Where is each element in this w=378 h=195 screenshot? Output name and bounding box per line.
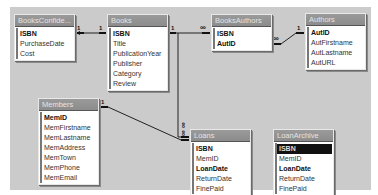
cardinality-one-label: 1 [297, 25, 300, 31]
field-category[interactable]: Category [111, 69, 166, 79]
cardinality-one-label: 1 [99, 25, 102, 31]
table-title[interactable]: BooksConfide... [15, 15, 74, 27]
field-list: ISBN Title PublicationYear Publisher Cat… [109, 28, 166, 89]
field-finepaid[interactable]: FinePaid [277, 184, 332, 194]
field-review[interactable]: Review [111, 79, 166, 89]
table-title[interactable]: Loans [191, 130, 250, 142]
field-loandate[interactable]: LoanDate [277, 164, 332, 174]
field-list: ISBN MemID LoanDate ReturnDate FinePaid [192, 143, 249, 194]
field-list: ISBN PurchaseDate Cost [16, 28, 73, 59]
field-finepaid[interactable]: FinePaid [194, 184, 249, 194]
table-booksauthors[interactable]: BooksAuthors ISBN AutID [211, 14, 272, 51]
field-isbn[interactable]: ISBN [18, 29, 73, 39]
field-isbn[interactable]: ISBN [194, 144, 249, 154]
table-loanarchive[interactable]: LoanArchive ISBN MemID LoanDate ReturnDa… [273, 129, 334, 195]
field-cost[interactable]: Cost [18, 49, 73, 59]
field-memid[interactable]: MemID [277, 154, 332, 164]
cardinality-one-label: 1 [77, 25, 80, 31]
table-title[interactable]: Members [39, 99, 98, 111]
field-isbn[interactable]: ISBN [215, 29, 270, 39]
cardinality-many-label: ∞ [273, 36, 279, 42]
field-autid[interactable]: AutID [309, 28, 364, 38]
field-isbn[interactable]: ISBN [111, 29, 166, 39]
cardinality-many-label: ∞ [180, 130, 186, 136]
field-memid[interactable]: MemID [42, 113, 97, 123]
cardinality-many-label: ∞ [200, 25, 206, 31]
cardinality-many-label: ∞ [180, 122, 186, 128]
field-publicationyear[interactable]: PublicationYear [111, 49, 166, 59]
field-purchasedate[interactable]: PurchaseDate [18, 39, 73, 49]
field-memaddress[interactable]: MemAddress [42, 143, 97, 153]
table-booksconfidential[interactable]: BooksConfide... ISBN PurchaseDate Cost [14, 14, 75, 61]
field-list: ISBN AutID [213, 28, 270, 49]
table-title[interactable]: Authors [306, 14, 365, 26]
field-list: ISBN MemID LoanDate ReturnDate FinePaid [275, 143, 332, 194]
field-auturl[interactable]: AutURL [309, 58, 364, 68]
field-mememail[interactable]: MemEmail [42, 173, 97, 183]
cardinality-one-label: 1 [101, 99, 104, 105]
field-title[interactable]: Title [111, 39, 166, 49]
field-returndate[interactable]: ReturnDate [277, 174, 332, 184]
table-title[interactable]: LoanArchive [274, 130, 333, 142]
field-publisher[interactable]: Publisher [111, 59, 166, 69]
field-memlastname[interactable]: MemLastname [42, 133, 97, 143]
field-returndate[interactable]: ReturnDate [194, 174, 249, 184]
field-autid[interactable]: AutID [215, 39, 270, 49]
field-loandate[interactable]: LoanDate [194, 164, 249, 174]
field-isbn-selected[interactable]: ISBN [277, 144, 332, 154]
field-memphone[interactable]: MemPhone [42, 163, 97, 173]
table-members[interactable]: Members MemID MemFirstname MemLastname M… [38, 98, 99, 185]
field-list: MemID MemFirstname MemLastname MemAddres… [40, 112, 97, 183]
table-authors[interactable]: Authors AutID AutFirstname AutLastname A… [305, 13, 366, 70]
field-autfirstname[interactable]: AutFirstname [309, 38, 364, 48]
table-loans[interactable]: Loans ISBN MemID LoanDate ReturnDate Fin… [190, 129, 251, 195]
table-title[interactable]: BooksAuthors [212, 15, 271, 27]
field-autlastname[interactable]: AutLastname [309, 48, 364, 58]
table-title[interactable]: Books [108, 15, 167, 27]
field-list: AutID AutFirstname AutLastname AutURL [307, 27, 364, 68]
table-books[interactable]: Books ISBN Title PublicationYear Publish… [107, 14, 168, 91]
field-memfirstname[interactable]: MemFirstname [42, 123, 97, 133]
field-memid[interactable]: MemID [194, 154, 249, 164]
field-memtown[interactable]: MemTown [42, 153, 97, 163]
cardinality-one-label: 1 [171, 25, 174, 31]
